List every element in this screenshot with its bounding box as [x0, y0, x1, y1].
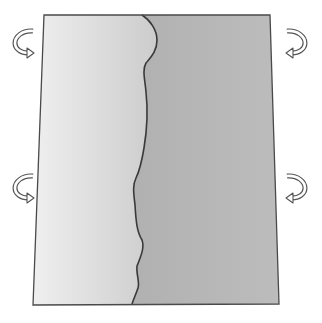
left-bottom-rotation-arrow-icon — [15, 176, 34, 203]
diagram-canvas — [0, 0, 322, 323]
right-top-rotation-arrow-icon — [286, 31, 305, 58]
right-bottom-rotation-arrow-icon — [286, 176, 305, 203]
left-top-rotation-arrow-icon — [15, 31, 34, 58]
